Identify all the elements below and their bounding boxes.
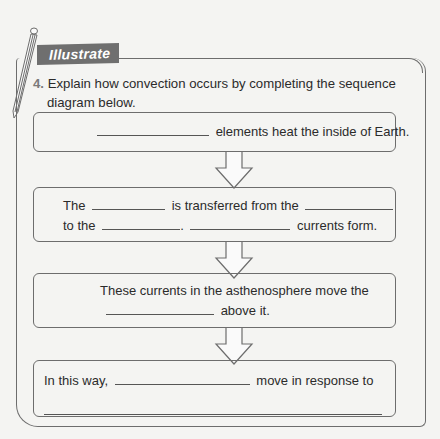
step-4-text-b: move in response to <box>256 373 373 388</box>
answer-blank[interactable] <box>115 383 250 385</box>
answer-blank-full[interactable] <box>44 413 382 415</box>
answer-blank[interactable] <box>305 208 393 210</box>
step-3-text-a: These currents in the asthenosphere move… <box>100 283 369 298</box>
answer-blank[interactable] <box>97 134 209 136</box>
question-prompt: 4. Explain how convection occurs by comp… <box>33 74 413 112</box>
step-2-text-c: to the <box>63 218 96 233</box>
question-text-line2: diagram below. <box>33 95 136 110</box>
step-2-text-b: is transferred from the <box>172 198 299 213</box>
step-2-text-d: . <box>180 218 184 233</box>
sequence-step-1: elements heat the inside of Earth. <box>33 112 396 152</box>
down-arrow-icon <box>214 152 254 190</box>
step-2-text-e: currents form. <box>297 218 377 233</box>
section-label-illustrate: Illustrate <box>37 43 119 65</box>
answer-blank[interactable] <box>106 313 214 315</box>
sequence-step-2: The is transferred from the to the . cur… <box>33 187 396 242</box>
sequence-step-3: These currents in the asthenosphere move… <box>33 273 396 328</box>
sequence-step-4: In this way, move in response to <box>33 360 396 417</box>
question-number: 4. <box>33 76 44 91</box>
answer-blank[interactable] <box>190 228 290 230</box>
step-2-text-a: The <box>63 198 85 213</box>
question-text-line1: Explain how convection occurs by complet… <box>48 76 396 91</box>
step-4-text-a: In this way, <box>44 373 108 388</box>
answer-blank[interactable] <box>102 228 180 230</box>
activity-frame-top <box>110 58 423 73</box>
step-1-text: elements heat the inside of Earth. <box>216 124 410 139</box>
step-3-text-b: above it. <box>221 303 270 318</box>
answer-blank[interactable] <box>92 208 165 210</box>
